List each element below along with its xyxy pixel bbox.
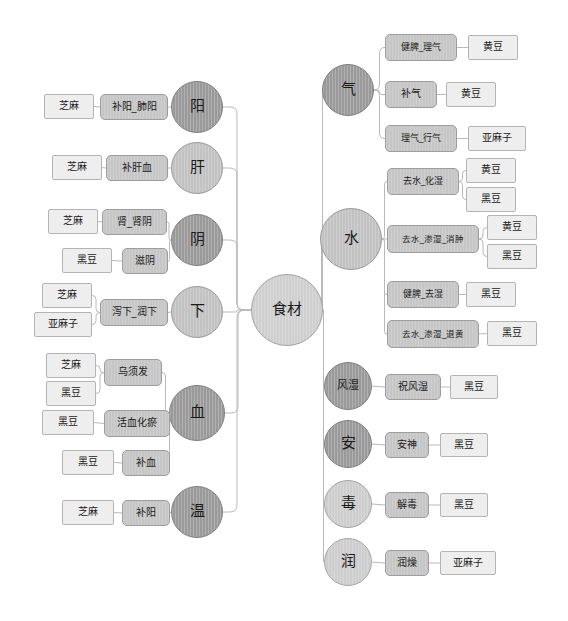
connector — [479, 334, 487, 335]
function-node-left-1-0[interactable]: 补肝血 — [106, 155, 168, 181]
ingredient-node-right-3-0-0[interactable]: 黑豆 — [440, 433, 488, 457]
node-label: 活血化瘀 — [117, 418, 157, 429]
node-label: 泻下_润下 — [112, 307, 157, 318]
function-node-right-1-0[interactable]: 去水_化湿 — [387, 168, 459, 195]
node-label: 乌须发 — [118, 367, 148, 378]
ingredient-node-right-1-2-0[interactable]: 黑豆 — [466, 282, 516, 307]
hub-node-left-3[interactable]: 下 — [171, 286, 223, 338]
function-node-left-4-2[interactable]: 补血 — [122, 450, 170, 476]
function-node-right-1-2[interactable]: 健脾_去湿 — [387, 281, 459, 308]
hub-node-right-0[interactable]: 气 — [322, 64, 374, 116]
node-label: 下 — [190, 304, 205, 320]
function-node-right-0-0[interactable]: 健脾_理气 — [385, 34, 457, 61]
connector — [322, 90, 323, 310]
node-label: 补阳_肺阳 — [112, 102, 157, 113]
hub-node-right-1[interactable]: 水 — [320, 208, 382, 270]
ingredient-node-left-4-0-1[interactable]: 黑豆 — [46, 381, 96, 406]
hub-node-left-5[interactable]: 温 — [171, 486, 223, 538]
connector — [374, 48, 385, 91]
connector — [96, 366, 104, 373]
hub-node-right-4[interactable]: 毒 — [324, 480, 372, 528]
node-label: 阳 — [190, 99, 205, 115]
hub-node-right-3[interactable]: 安 — [324, 420, 372, 468]
node-label: 健脾_去湿 — [403, 290, 444, 299]
ingredient-node-right-5-0-0[interactable]: 亚麻子 — [440, 551, 496, 575]
ingredient-node-right-1-0-0[interactable]: 黄豆 — [466, 158, 516, 183]
ingredient-node-right-1-3-0[interactable]: 黑豆 — [487, 321, 537, 346]
node-label: 亚麻子 — [48, 319, 78, 330]
node-label: 解毒 — [397, 500, 417, 511]
node-label: 肝 — [190, 160, 205, 176]
ingredient-node-right-1-0-1[interactable]: 黑豆 — [466, 187, 516, 212]
connector — [459, 182, 466, 200]
node-label: 黄豆 — [483, 42, 503, 53]
connector — [94, 423, 104, 424]
ingredient-node-left-5-0-0[interactable]: 芝麻 — [62, 500, 114, 525]
ingredient-node-right-0-0-0[interactable]: 黄豆 — [468, 35, 518, 60]
ingredient-node-right-1-1-1[interactable]: 黑豆 — [487, 244, 537, 269]
connector — [225, 310, 251, 413]
function-node-right-3-0[interactable]: 安神 — [385, 432, 429, 458]
node-label: 安 — [341, 436, 356, 452]
ingredient-node-left-2-1-0[interactable]: 黑豆 — [62, 248, 112, 273]
function-node-right-1-3[interactable]: 去水_渗湿_退黄 — [387, 320, 479, 348]
ingredient-node-left-2-0-0[interactable]: 芝麻 — [48, 209, 98, 234]
function-node-left-4-0[interactable]: 乌须发 — [104, 359, 162, 386]
node-label: 补气 — [401, 89, 421, 100]
node-label: 黑豆 — [61, 388, 81, 399]
node-label: 亚麻子 — [482, 133, 512, 144]
function-node-left-2-0[interactable]: 肾_肾阴 — [102, 209, 167, 235]
node-label: 祝风湿 — [398, 382, 428, 393]
hub-node-left-0[interactable]: 阳 — [171, 81, 223, 133]
ingredient-node-right-0-2-0[interactable]: 亚麻子 — [468, 126, 526, 151]
node-label: 芝麻 — [78, 507, 98, 518]
ingredient-node-left-4-1-0[interactable]: 黑豆 — [42, 410, 94, 435]
ingredient-node-left-3-0-0[interactable]: 芝麻 — [42, 283, 92, 308]
connector — [372, 562, 385, 563]
function-node-right-2-0[interactable]: 祝风湿 — [385, 374, 441, 400]
ingredient-node-right-2-0-0[interactable]: 黑豆 — [450, 375, 498, 399]
function-node-left-0-0[interactable]: 补阳_肺阳 — [100, 94, 168, 120]
node-label: 补阳 — [136, 508, 156, 519]
ingredient-node-right-0-1-0[interactable]: 黄豆 — [446, 82, 496, 107]
ingredient-node-right-1-1-0[interactable]: 黄豆 — [487, 215, 537, 240]
function-node-left-5-0[interactable]: 补阳 — [122, 500, 170, 526]
function-node-left-3-0[interactable]: 泻下_润下 — [100, 299, 168, 326]
node-label: 补肝血 — [122, 163, 152, 174]
connector — [459, 171, 466, 182]
hub-node-left-4[interactable]: 血 — [169, 385, 225, 441]
hub-node-left-2[interactable]: 阴 — [171, 214, 223, 266]
node-label: 黑豆 — [454, 500, 474, 511]
function-node-right-5-0[interactable]: 润燥 — [385, 550, 429, 576]
ingredient-node-left-4-0-0[interactable]: 芝麻 — [46, 353, 96, 378]
node-label: 黑豆 — [78, 457, 98, 468]
function-node-right-4-0[interactable]: 解毒 — [385, 492, 429, 518]
node-label: 肾_肾阴 — [117, 217, 152, 228]
function-node-left-4-1[interactable]: 活血化瘀 — [104, 410, 170, 437]
ingredient-node-left-3-0-1[interactable]: 亚麻子 — [34, 312, 92, 337]
connector — [96, 373, 104, 394]
ingredient-node-left-0-0-0[interactable]: 芝麻 — [44, 94, 94, 119]
connector — [112, 261, 122, 262]
node-label: 黄豆 — [502, 222, 522, 233]
connector — [114, 513, 122, 514]
function-node-right-0-1[interactable]: 补气 — [385, 81, 437, 108]
connector — [479, 228, 487, 240]
ingredient-node-right-4-0-0[interactable]: 黑豆 — [440, 493, 488, 517]
function-node-right-0-2[interactable]: 理气_行气 — [385, 125, 457, 152]
node-label: 黑豆 — [58, 417, 78, 428]
ingredient-node-left-1-0-0[interactable]: 芝麻 — [52, 155, 102, 180]
node-label: 黑豆 — [481, 289, 501, 300]
hub-node-right-2[interactable]: 风湿 — [324, 362, 372, 410]
function-node-left-2-1[interactable]: 滋阴 — [122, 248, 168, 274]
ingredient-node-left-4-2-0[interactable]: 黑豆 — [62, 450, 114, 475]
node-label: 去水_渗湿_退黄 — [402, 330, 465, 339]
hub-node-right-5[interactable]: 润 — [324, 538, 372, 586]
node-label: 黑豆 — [464, 382, 484, 393]
root-node[interactable]: 食材 — [251, 274, 323, 346]
node-label: 黄豆 — [461, 89, 481, 100]
hub-node-left-1[interactable]: 肝 — [171, 142, 223, 194]
function-node-right-1-1[interactable]: 去水_渗湿_消肿 — [387, 225, 479, 253]
node-label: 黑豆 — [502, 328, 522, 339]
node-label: 气 — [341, 82, 356, 98]
